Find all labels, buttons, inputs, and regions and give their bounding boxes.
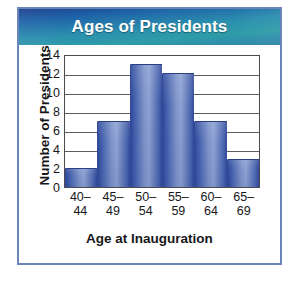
histogram-bar xyxy=(65,168,97,187)
chart-title-banner: Ages of Presidents xyxy=(19,9,280,45)
y-tick-label: 2 xyxy=(53,163,60,176)
histogram-bar xyxy=(162,73,194,187)
chart-body: Number of Presidents 14121086420 40– 444… xyxy=(19,45,280,263)
y-axis-tick-labels: 14121086420 xyxy=(39,55,60,188)
x-axis-title: Age at Inauguration xyxy=(19,231,280,246)
plot-area xyxy=(64,55,260,188)
x-tick-label: 55– 59 xyxy=(162,191,195,218)
y-tick-label: 14 xyxy=(46,49,60,62)
x-tick-label: 40– 44 xyxy=(64,191,97,218)
histogram-bar xyxy=(227,159,259,188)
figure-card: Ages of Presidents Number of Presidents … xyxy=(17,7,282,265)
histogram-bars xyxy=(65,56,259,187)
x-tick-label: 60– 64 xyxy=(195,191,228,218)
histogram-bar xyxy=(130,64,162,188)
chart-title: Ages of Presidents xyxy=(72,17,228,37)
y-tick-label: 6 xyxy=(53,125,60,138)
y-tick-label: 12 xyxy=(46,68,60,81)
y-tick-label: 10 xyxy=(46,87,60,100)
y-tick-label: 8 xyxy=(53,106,60,119)
y-tick-label: 0 xyxy=(53,182,60,195)
histogram-bar xyxy=(194,121,226,188)
x-axis-tick-labels: 40– 4445– 4950– 5455– 5960– 6465– 69 xyxy=(64,191,260,218)
x-tick-label: 65– 69 xyxy=(227,191,260,218)
x-tick-label: 50– 54 xyxy=(129,191,162,218)
x-tick-label: 45– 49 xyxy=(97,191,130,218)
histogram-bar xyxy=(97,121,129,188)
y-tick-label: 4 xyxy=(53,144,60,157)
